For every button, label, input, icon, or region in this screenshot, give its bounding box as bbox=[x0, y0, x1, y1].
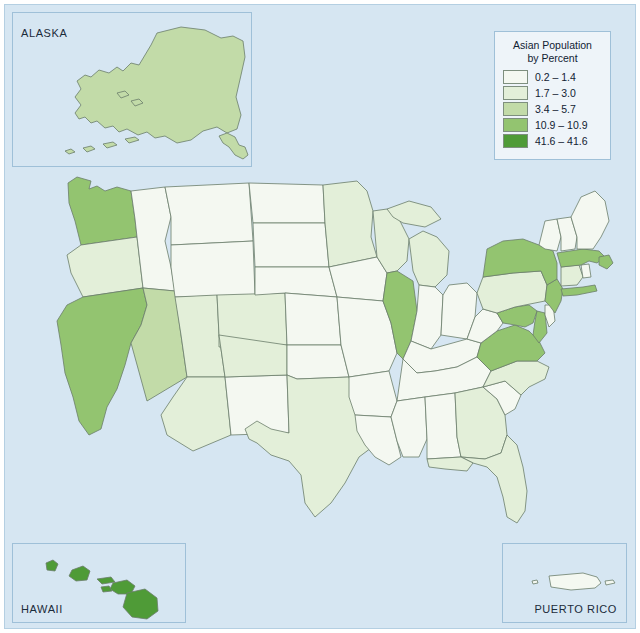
region-PR[interactable] bbox=[549, 573, 601, 590]
region-SD[interactable] bbox=[253, 223, 329, 267]
region-HI-molokai[interactable] bbox=[97, 577, 115, 584]
region-KS[interactable] bbox=[285, 293, 341, 345]
region-ND[interactable] bbox=[249, 183, 325, 223]
legend-label: 10.9 – 10.9 bbox=[535, 119, 588, 131]
region-AK-aleutians[interactable] bbox=[65, 149, 75, 154]
region-MN[interactable] bbox=[323, 181, 377, 267]
legend-title-line2: by Percent bbox=[527, 52, 577, 64]
region-OR[interactable] bbox=[67, 237, 143, 297]
legend-label: 0.2 – 1.4 bbox=[535, 71, 576, 83]
region-WA[interactable] bbox=[68, 177, 137, 245]
region-AK-aleutians-3[interactable] bbox=[103, 142, 117, 148]
region-HI-bigisland[interactable] bbox=[123, 589, 158, 619]
region-group-alaska[interactable] bbox=[65, 27, 248, 159]
legend-row[interactable]: 1.7 – 3.0 bbox=[503, 86, 602, 100]
region-WY[interactable] bbox=[171, 241, 255, 297]
region-PA[interactable] bbox=[477, 271, 547, 313]
legend-swatch-icon bbox=[503, 70, 528, 84]
region-CA[interactable] bbox=[57, 288, 147, 435]
region-NY-longisland[interactable] bbox=[561, 285, 597, 296]
region-IN[interactable] bbox=[411, 285, 443, 349]
region-ME[interactable] bbox=[571, 191, 609, 249]
legend-label: 41.6 – 41.6 bbox=[535, 135, 588, 147]
legend-label: 3.4 – 5.7 bbox=[535, 103, 576, 115]
region-MA[interactable] bbox=[557, 249, 605, 267]
legend-swatch-icon bbox=[503, 118, 528, 132]
region-HI-lanai[interactable] bbox=[101, 586, 112, 592]
region-RI[interactable] bbox=[581, 264, 591, 278]
legend-swatch-icon bbox=[503, 134, 528, 148]
map-canvas[interactable]: .st{stroke:#6b7d6b;stroke-width:0.8;stro… bbox=[4, 4, 636, 629]
map-figure: .st{stroke:#6b7d6b;stroke-width:0.8;stro… bbox=[0, 0, 640, 633]
region-group-puerto-rico[interactable] bbox=[532, 573, 615, 590]
region-NE[interactable] bbox=[255, 267, 337, 297]
legend-row[interactable]: 0.2 – 1.4 bbox=[503, 70, 602, 84]
region-PR-mona[interactable] bbox=[532, 580, 538, 584]
legend-swatch-icon bbox=[503, 102, 528, 116]
legend-row[interactable]: 3.4 – 5.7 bbox=[503, 102, 602, 116]
inset-label-hawaii: HAWAII bbox=[21, 603, 63, 615]
legend-row[interactable]: 41.6 – 41.6 bbox=[503, 134, 602, 148]
legend-label: 1.7 – 3.0 bbox=[535, 87, 576, 99]
region-OK[interactable] bbox=[287, 345, 349, 379]
region-AK-aleutians-2[interactable] bbox=[83, 146, 95, 152]
region-AK-panhandle[interactable] bbox=[219, 133, 248, 159]
legend-row[interactable]: 10.9 – 10.9 bbox=[503, 118, 602, 132]
region-MA-cape[interactable] bbox=[599, 255, 613, 269]
inset-label-alaska: ALASKA bbox=[21, 27, 67, 39]
region-MT[interactable] bbox=[165, 183, 253, 245]
region-group-conus[interactable] bbox=[57, 177, 613, 523]
map-legend: Asian Population by Percent 0.2 – 1.4 1.… bbox=[494, 31, 611, 160]
region-AZ[interactable] bbox=[161, 377, 231, 451]
region-AK-aleutians-4[interactable] bbox=[125, 137, 139, 143]
legend-title: Asian Population by Percent bbox=[503, 39, 602, 65]
region-PR-vieques[interactable] bbox=[605, 580, 615, 585]
region-HI-oahu[interactable] bbox=[69, 566, 90, 581]
inset-label-puerto-rico: PUERTO RICO bbox=[534, 603, 617, 615]
region-HI-kauai[interactable] bbox=[46, 560, 58, 571]
legend-entries: 0.2 – 1.4 1.7 – 3.0 3.4 – 5.7 10.9 – 10.… bbox=[503, 70, 602, 148]
legend-title-line1: Asian Population bbox=[513, 39, 592, 51]
region-CT[interactable] bbox=[561, 265, 583, 286]
legend-swatch-icon bbox=[503, 86, 528, 100]
region-AK[interactable] bbox=[75, 27, 245, 143]
region-AR[interactable] bbox=[349, 371, 397, 417]
region-MI[interactable] bbox=[409, 231, 449, 287]
